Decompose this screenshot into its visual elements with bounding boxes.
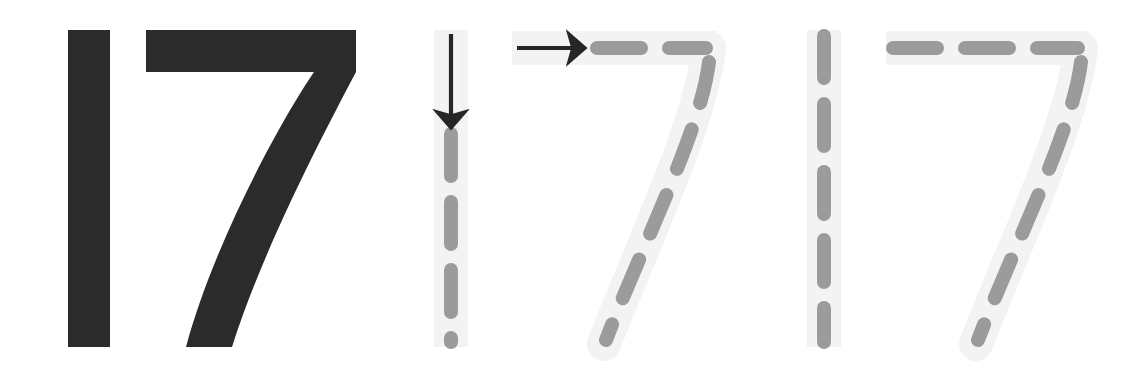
model-digit-7 bbox=[146, 30, 356, 347]
panel-traced-guided bbox=[451, 30, 716, 347]
handwriting-worksheet-canvas: 17 seventeen bbox=[0, 0, 1138, 374]
model-digit-1-vertical-stroke bbox=[68, 30, 110, 347]
traced-digit-7-diagonal-dashed-stroke bbox=[978, 62, 1081, 340]
panel-traced bbox=[824, 30, 1088, 347]
traced-digit-7 bbox=[886, 48, 1088, 344]
guided-digit-7 bbox=[512, 48, 716, 344]
model-digit-7-diagonal-stroke bbox=[186, 30, 356, 347]
model-digit-1 bbox=[68, 30, 110, 347]
panel-model bbox=[68, 30, 356, 347]
worksheet-artwork bbox=[0, 0, 1138, 374]
guided-digit-7-diagonal-dashed-stroke bbox=[606, 62, 709, 340]
